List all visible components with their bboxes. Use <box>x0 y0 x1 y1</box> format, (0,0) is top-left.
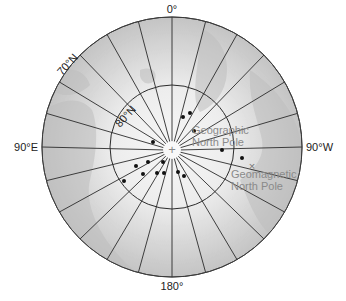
station-dot <box>151 140 155 144</box>
station-dot <box>220 148 224 152</box>
polar-map: 0° 180° 90°E 90°W 70°N 80°N + Geographic… <box>0 0 346 301</box>
label-90W: 90°W <box>306 141 334 153</box>
station-dot <box>181 115 185 119</box>
geographic-pole-label-1: Geographic <box>192 124 249 136</box>
station-dot <box>134 164 138 168</box>
geographic-pole-label-2: North Pole <box>192 136 244 148</box>
station-dot <box>155 171 159 175</box>
polar-projection-svg: 0° 180° 90°E 90°W 70°N 80°N + Geographic… <box>0 0 346 301</box>
station-dot <box>188 111 192 115</box>
label-0-deg: 0° <box>167 3 178 15</box>
geomagnetic-pole-label-1: Geomagnetic <box>231 168 297 180</box>
station-dot <box>240 156 244 160</box>
station-dot <box>162 171 166 175</box>
geographic-pole-marker: + <box>168 142 176 157</box>
station-dot <box>161 160 165 164</box>
geomagnetic-pole-label-2: North Pole <box>231 180 283 192</box>
label-180-deg: 180° <box>161 280 184 292</box>
station-dot <box>182 174 186 178</box>
station-dot <box>146 160 150 164</box>
label-90E: 90°E <box>14 141 38 153</box>
station-dot <box>141 172 145 176</box>
station-dot <box>176 170 180 174</box>
station-dot <box>122 179 126 183</box>
